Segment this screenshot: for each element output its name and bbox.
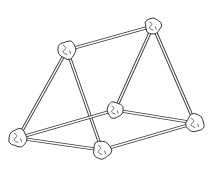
ball-bottom-left	[9, 129, 27, 147]
rod-A-B	[67, 26, 153, 50]
rod-D-E	[18, 138, 102, 150]
ball-top-left	[58, 41, 76, 60]
rod-A-E	[67, 50, 102, 150]
rods-group	[18, 26, 195, 150]
ball-bottom-front	[94, 141, 112, 159]
rod-C-F	[115, 110, 195, 123]
prism-model-svg	[0, 0, 213, 170]
rod-E-F	[102, 123, 195, 150]
rod-B-F	[153, 26, 195, 123]
prism-model-figure	[0, 0, 213, 170]
rod-B-C	[115, 26, 153, 110]
ball-middle-back	[107, 102, 123, 118]
ball-right	[186, 114, 205, 132]
ball-top-right	[145, 18, 162, 34]
